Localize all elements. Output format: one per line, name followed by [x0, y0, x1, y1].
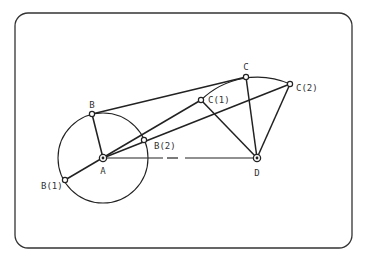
link-b1-c1 [65, 100, 201, 180]
label-b: B [89, 100, 94, 110]
label-d: D [254, 168, 259, 178]
joint-c2-icon [287, 81, 292, 86]
pivot-d-dot [256, 157, 259, 160]
label-c1: C(1) [208, 95, 230, 105]
links-group [65, 77, 290, 180]
joint-c-icon [243, 74, 248, 79]
joint-b2-icon [141, 137, 146, 142]
linkage-diagram: ABB(1)B(2)CC(1)C(2)D [0, 0, 367, 263]
label-b1: B(1) [41, 181, 63, 191]
link-c-d [246, 77, 257, 158]
joint-b-icon [89, 111, 94, 116]
joint-b1-icon [62, 177, 67, 182]
label-b2: B(2) [154, 141, 176, 151]
link-a-b [92, 114, 103, 158]
label-c2: C(2) [296, 83, 318, 93]
label-c: C [243, 62, 248, 72]
labels-group: ABB(1)B(2)CC(1)C(2)D [41, 62, 318, 191]
joint-c1-icon [198, 97, 203, 102]
pivot-a-dot [102, 157, 105, 160]
label-a: A [100, 166, 106, 176]
diagram-frame [15, 13, 352, 248]
